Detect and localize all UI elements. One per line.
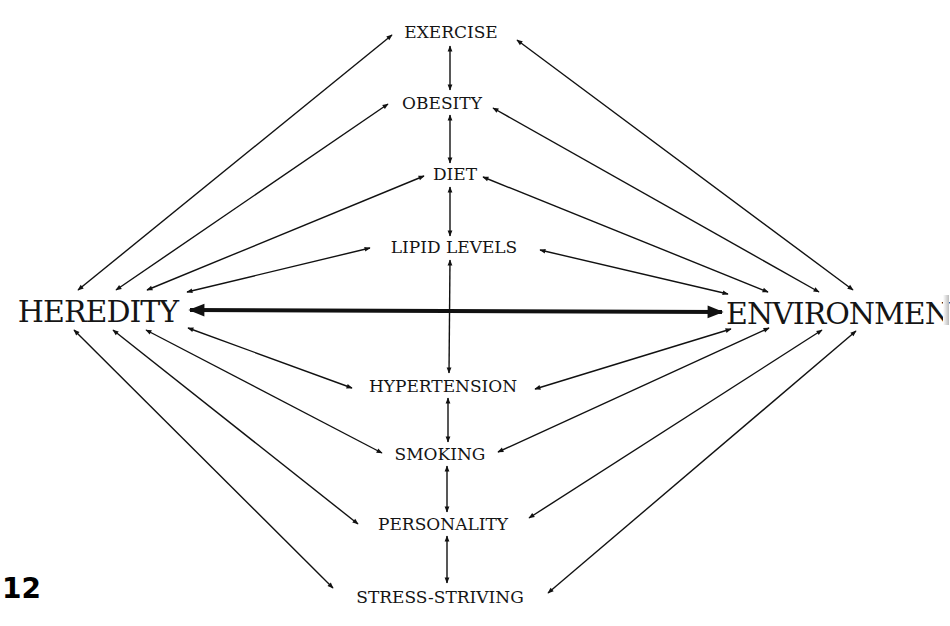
node-lipid-levels: LIPID LEVELS bbox=[391, 237, 518, 257]
node-stress-striving: STRESS-STRIVING bbox=[356, 587, 524, 607]
node-personality: PERSONALITY bbox=[378, 514, 508, 534]
node-exercise: EXERCISE bbox=[404, 22, 498, 42]
node-environment: ENVIRONMEN bbox=[726, 296, 950, 331]
node-diet: DIET bbox=[433, 164, 477, 184]
page-number: 12 bbox=[2, 572, 41, 605]
node-obesity: OBESITY bbox=[402, 93, 482, 113]
page-edge-shadow bbox=[943, 295, 949, 325]
node-hypertension: HYPERTENSION bbox=[369, 376, 517, 396]
node-smoking: SMOKING bbox=[395, 444, 486, 464]
heredity-environment-arrow bbox=[190, 310, 722, 312]
node-heredity: HEREDITY bbox=[18, 294, 178, 329]
